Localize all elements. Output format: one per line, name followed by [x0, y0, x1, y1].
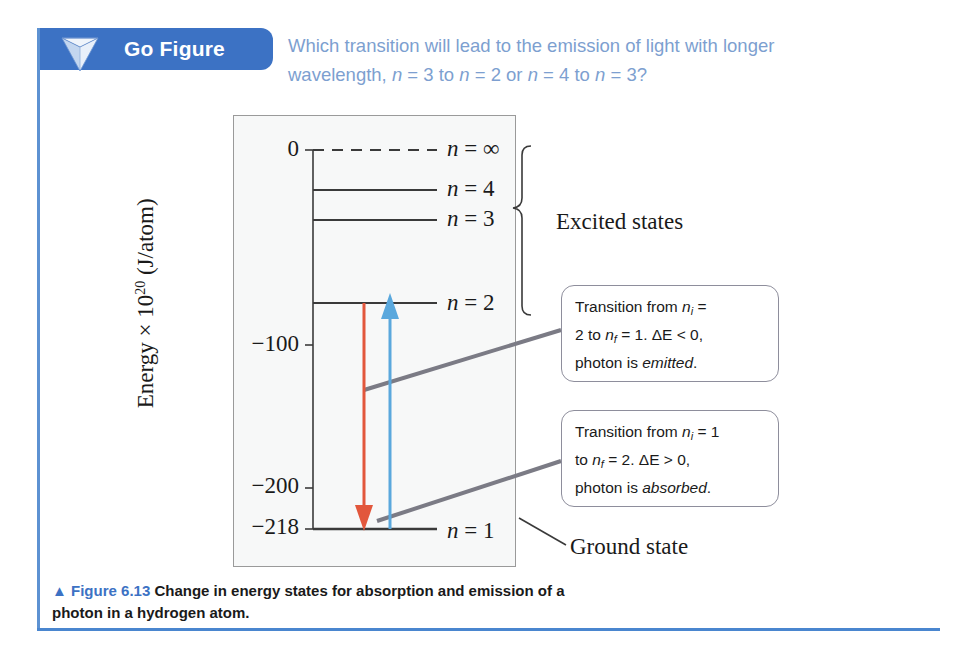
y-tick-minus218: −218 [229, 514, 299, 540]
caption-triangle-icon: ▲ [52, 582, 67, 599]
go-figure-label: Go Figure [124, 37, 225, 61]
caption-figure-number: Figure 6.13 [71, 582, 150, 599]
go-figure-banner: Go Figure [40, 28, 273, 70]
level-label-n-infinity: n = ∞ [447, 136, 499, 162]
level-label-n-2: n = 2 [447, 290, 494, 316]
inverted-pyramid-icon [58, 30, 102, 74]
figure-caption: ▲ Figure 6.13 Change in energy states fo… [52, 580, 612, 624]
ground-state-label: Ground state [570, 534, 688, 560]
level-label-n-3: n = 3 [447, 206, 494, 232]
question-line-2: wavelength, n = 3 to n = 2 or n = 4 to n… [288, 64, 647, 85]
left-blue-rail [37, 28, 40, 628]
bottom-blue-rule [37, 628, 940, 631]
ground-state-leader [519, 518, 566, 545]
y-axis-title: Energy × 1020 (J/atom) [133, 153, 160, 453]
y-tick-0: 0 [255, 136, 299, 162]
callout-absorption: Transition from ni = 1 to nf = 2. ΔE > 0… [561, 410, 779, 507]
figure-page: Go Figure Which transition will lead to … [0, 0, 963, 667]
question-line-1: Which transition will lead to the emissi… [288, 35, 774, 56]
y-tick-minus200: −200 [229, 473, 299, 499]
level-label-n-4: n = 4 [447, 176, 494, 202]
y-tick-minus100: −100 [229, 331, 299, 357]
level-label-n-1: n = 1 [447, 518, 494, 544]
excited-states-label: Excited states [556, 209, 683, 235]
go-figure-question: Which transition will lead to the emissi… [288, 31, 928, 89]
callout-emission: Transition from ni = 2 to nf = 1. ΔE < 0… [561, 285, 779, 382]
